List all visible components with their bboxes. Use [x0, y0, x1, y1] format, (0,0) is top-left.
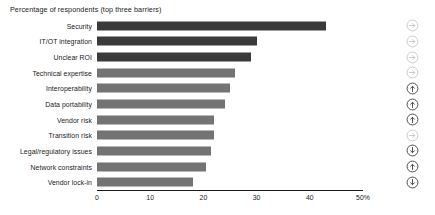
- x-tick-label: 10: [146, 194, 154, 201]
- bar-row: Technical expertise: [0, 65, 380, 81]
- icon-rail: [403, 18, 427, 190]
- bar-row: Network constraints: [0, 159, 380, 175]
- bar: [97, 146, 211, 155]
- bar-row: IT/OT integration: [0, 34, 380, 50]
- bar: [97, 99, 225, 108]
- arrow-up-circle-icon: [406, 82, 419, 95]
- x-axis-line: [97, 190, 363, 191]
- arrow-right-circle-icon: [406, 129, 419, 142]
- bar: [97, 115, 214, 124]
- arrow-up-circle-icon: [406, 113, 419, 126]
- bar: [97, 68, 235, 77]
- x-tick-label: 0: [95, 194, 99, 201]
- category-label: Transition risk: [49, 132, 92, 139]
- bar-chart-figure: Percentage of respondents (top three bar…: [0, 0, 435, 215]
- bar: [97, 37, 257, 46]
- arrow-right-circle-icon: [406, 19, 419, 32]
- plot-area: SecurityIT/OT integrationUnclear ROITech…: [0, 18, 380, 190]
- arrow-down-circle-icon: [406, 176, 419, 189]
- arrow-right-circle-icon: [406, 66, 419, 79]
- bar: [97, 53, 251, 62]
- category-label: Security: [67, 22, 92, 29]
- category-label: Legal/regulatory issues: [20, 147, 92, 154]
- bar: [97, 84, 230, 93]
- category-label: Data portability: [45, 100, 92, 107]
- bar-row: Legal/regulatory issues: [0, 143, 380, 159]
- category-label: Technical expertise: [32, 69, 92, 76]
- x-tick-label: 40: [306, 194, 314, 201]
- bar-row: Interoperability: [0, 81, 380, 97]
- bar-row: Data portability: [0, 96, 380, 112]
- x-tick-label: 20: [200, 194, 208, 201]
- bar: [97, 178, 193, 187]
- category-label: Network constraints: [31, 163, 92, 170]
- category-label: Unclear ROI: [54, 54, 92, 61]
- bar-row: Unclear ROI: [0, 49, 380, 65]
- category-label: Vendor risk: [57, 116, 92, 123]
- arrow-down-circle-icon: [406, 144, 419, 157]
- arrow-right-circle-icon: [406, 35, 419, 48]
- x-tick-label: 30: [253, 194, 261, 201]
- chart-title: Percentage of respondents (top three bar…: [10, 5, 162, 14]
- bar-row: Security: [0, 18, 380, 34]
- bar: [97, 21, 326, 30]
- category-label: Interoperability: [46, 85, 92, 92]
- x-tick-label: 50%: [356, 194, 370, 201]
- bar-row: Vendor risk: [0, 112, 380, 128]
- bar-row: Vendor lock-in: [0, 174, 380, 190]
- arrow-up-circle-icon: [406, 160, 419, 173]
- category-label: IT/OT integration: [40, 38, 92, 45]
- arrow-up-circle-icon: [406, 98, 419, 111]
- bar: [97, 131, 214, 140]
- category-label: Vendor lock-in: [48, 179, 92, 186]
- arrow-right-circle-icon: [406, 51, 419, 64]
- bar: [97, 162, 206, 171]
- bar-row: Transition risk: [0, 127, 380, 143]
